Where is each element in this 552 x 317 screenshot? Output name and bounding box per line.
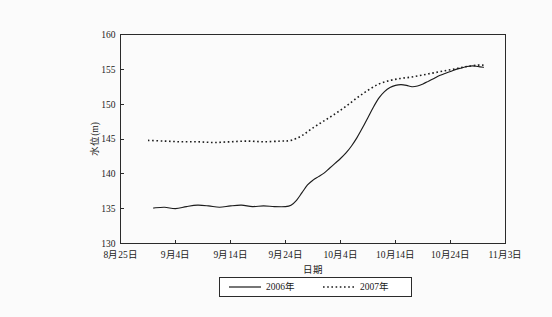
y-axis-title: 水位(m) [89,122,101,156]
chart-figure: 130135140145150155160 8月25日9月4日9月14日9月24… [0,0,552,317]
x-tick-label: 11月3日 [489,250,523,260]
figure-background [0,0,552,317]
x-tick-label: 9月14日 [213,250,247,260]
legend-label: 2007年 [360,281,389,292]
y-tick-label: 130 [101,239,116,249]
y-tick-label: 145 [101,134,116,144]
chart-legend: 2006年2007年 [219,277,411,296]
y-tick-label: 150 [101,100,116,110]
water-level-line-chart: 130135140145150155160 8月25日9月4日9月14日9月24… [0,0,552,317]
x-tick-label: 10月4日 [323,250,357,260]
x-tick-label: 9月24日 [268,250,302,260]
y-tick-label: 135 [101,204,116,214]
x-tick-label: 10月24日 [431,250,470,260]
y-tick-label: 160 [101,30,116,40]
x-tick-label: 9月4日 [161,250,191,260]
x-tick-label: 10月14日 [376,250,415,260]
y-tick-label: 140 [101,169,116,179]
x-tick-label: 8月25日 [103,250,137,260]
y-tick-label: 155 [101,65,116,75]
x-axis-title: 日期 [303,265,323,275]
legend-label: 2006年 [266,281,295,292]
